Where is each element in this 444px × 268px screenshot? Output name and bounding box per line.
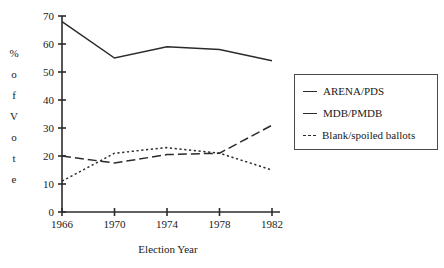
x-tick-label: 1966 (42, 219, 82, 230)
series-line-arena-pds (62, 22, 272, 61)
x-tick-label: 1970 (95, 219, 135, 230)
y-axis-title-letter: o (6, 132, 22, 143)
y-tick-label: 40 (32, 95, 54, 106)
x-tick-label: 1974 (147, 219, 187, 230)
legend-swatch-solid-icon (303, 91, 317, 92)
y-tick-label: 10 (32, 179, 54, 190)
x-tick-label: 1978 (200, 219, 240, 230)
y-axis-title-letter: V (6, 111, 22, 122)
legend-item-arena-pds: ARENA/PDS (303, 83, 384, 99)
y-tick-label: 70 (32, 11, 54, 22)
legend-item-mdb-pmdb: MDB/PMDB (303, 105, 382, 121)
legend-label: Blank/spoiled ballots (322, 130, 415, 141)
y-tick-label: 20 (32, 151, 54, 162)
x-tick-label: 1982 (252, 219, 292, 230)
y-tick-label: 60 (32, 39, 54, 50)
legend-swatch-dotted-icon (303, 135, 316, 136)
legend-label: ARENA/PDS (323, 86, 384, 97)
y-axis-title-letter: % (6, 48, 22, 59)
y-tick-label: 30 (32, 123, 54, 134)
legend-item-blank-spoiled: Blank/spoiled ballots (303, 127, 415, 143)
series-line-mdb-pmdb (62, 125, 272, 163)
x-axis-title: Election Year (62, 243, 274, 255)
y-axis-title-letter: e (6, 174, 22, 185)
legend: ARENA/PDS MDB/PMDB Blank/spoiled ballots (294, 74, 438, 150)
y-tick-label: 50 (32, 67, 54, 78)
y-axis-title-letter: t (6, 153, 22, 164)
data-series-group (62, 22, 272, 182)
line-chart: %ofVote 010203040506070 1966197019741978… (0, 0, 444, 268)
legend-label: MDB/PMDB (323, 108, 382, 119)
series-line-blank-spoiled-ballots (62, 148, 272, 182)
y-axis-title-letter: o (6, 69, 22, 80)
y-axis-title-letter: f (6, 90, 22, 101)
legend-swatch-dashed-icon (303, 113, 317, 114)
y-tick-label: 0 (32, 207, 54, 218)
